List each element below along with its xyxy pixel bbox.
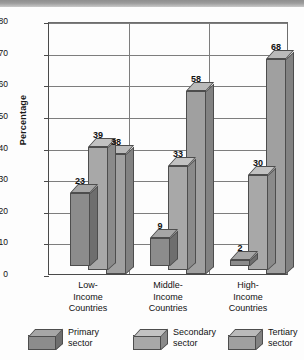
legend-label-line1: Tertiary [268,327,304,338]
category-label-line: Middle- [122,280,214,292]
cube-icon [228,329,262,350]
y-tick-label-20: 20 [0,206,8,216]
y-tick-mark-70 [44,55,49,56]
y-tick-mark-30 [44,181,49,182]
value-label-3-1: 2 [225,243,255,253]
category-label-line: Countries [122,303,214,315]
bar-2-1 [150,238,170,266]
category-label-line: Countries [42,303,134,315]
category-label-1: Low-IncomeCountries [42,280,134,315]
bar-side [188,158,196,270]
bar-front [70,193,90,266]
y-axis-title: Percentage [18,75,28,165]
value-label-3-3: 68 [261,42,291,52]
value-label-1-3: 38 [101,137,131,147]
y-tick-mark-80 [44,23,49,24]
y-tick-label-60: 60 [0,79,8,89]
legend-label-1: Primarysector [68,327,138,348]
category-label-2: Middle-IncomeCountries [122,280,214,315]
y-tick-mark-20 [44,213,49,214]
gridline-70 [49,55,287,56]
category-label-line: Low- [42,280,134,292]
y-tick-label-30: 30 [0,174,8,184]
y-tick-label-0: 0 [0,269,8,279]
y-tick-mark-40 [44,150,49,151]
category-label-line: Income [42,292,134,304]
bar-side [126,147,134,274]
cube-front [28,335,56,350]
gridline-50 [49,118,287,119]
category-label-line: Countries [202,303,294,315]
bar-side [206,83,214,274]
value-label-2-3: 58 [181,74,211,84]
y-tick-label-80: 80 [0,16,8,26]
bar-front [150,238,170,266]
legend-label-line1: Primary [68,327,138,338]
y-tick-label-10: 10 [0,237,8,247]
bar-side [268,168,276,270]
y-tick-mark-50 [44,118,49,119]
header-strip [0,0,304,7]
value-label-2-1: 9 [145,221,175,231]
value-label-3-2: 30 [243,158,273,168]
y-tick-mark-10 [44,244,49,245]
legend-label-3: Tertiarysector [268,327,304,348]
gridline-60 [49,86,287,87]
bar-side [108,139,116,270]
chart-legend: PrimarysectorSecondarysectorTertiarysect… [0,323,304,360]
cube-icon [133,329,167,350]
legend-label-line2: sector [268,338,304,349]
y-tick-mark-60 [44,86,49,87]
cube-front [133,335,161,350]
bar-1-1 [70,193,90,266]
category-label-3: High-IncomeCountries [202,280,294,315]
category-label-line: Income [122,292,214,304]
gridline-80 [49,23,287,24]
legend-label-line2: sector [68,338,138,349]
y-tick-label-50: 50 [0,111,8,121]
cube-front [228,335,256,350]
chart-figure: Percentage 01020304050607080 23393893358… [0,7,304,360]
y-tick-label-70: 70 [0,48,8,58]
plot-area: 2339389335823068 [48,22,288,275]
category-label-line: Income [202,292,294,304]
y-tick-label-40: 40 [0,143,8,153]
bar-side [90,186,98,266]
value-label-2-2: 33 [163,149,193,159]
y-tick-mark-0 [44,276,49,277]
cube-icon [28,329,62,350]
value-label-1-1: 23 [65,176,95,186]
category-label-line: High- [202,280,294,292]
bar-side [286,52,294,274]
bar-front [230,260,250,266]
bar-3-1 [230,260,250,266]
